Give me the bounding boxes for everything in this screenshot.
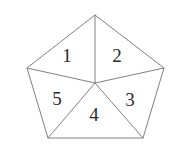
pentagon-diagram: 1 2 3 4 5 — [0, 0, 172, 158]
region-label-4: 4 — [89, 104, 99, 125]
region-label-2: 2 — [112, 45, 122, 66]
region-label-5: 5 — [52, 88, 62, 109]
region-label-1: 1 — [62, 45, 72, 66]
pentagon-figure: 1 2 3 4 5 — [0, 0, 172, 158]
region-label-3: 3 — [125, 89, 135, 110]
